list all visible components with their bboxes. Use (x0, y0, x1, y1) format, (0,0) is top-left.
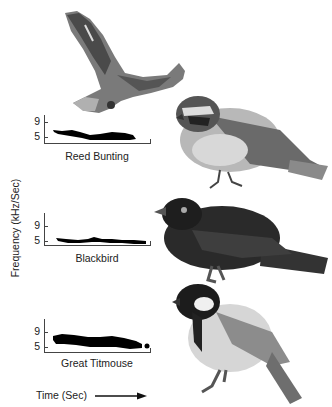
arrow-right-icon (93, 391, 149, 401)
tick-9: 9 (28, 115, 40, 127)
chart-great-titmouse: 9 5 Great Titmouse (0, 316, 160, 376)
great-titmouse-illustration (172, 282, 332, 407)
spectrogram-axes (0, 110, 160, 150)
tick-5: 5 (28, 340, 40, 352)
call-trace (56, 237, 146, 244)
panel-title: Blackbird (44, 252, 150, 264)
reed-bunting-illustration (170, 90, 330, 190)
tick-9: 9 (28, 219, 40, 231)
tick-9: 9 (28, 325, 40, 337)
call-trace (53, 130, 136, 140)
spectrogram-axes (0, 210, 160, 250)
call-trace (53, 334, 142, 349)
tick-5: 5 (28, 234, 40, 246)
spectrogram-axes (0, 316, 160, 356)
x-axis-label: Time (Sec) (36, 389, 87, 401)
blackbird-illustration (152, 194, 332, 284)
panel-title: Reed Bunting (44, 150, 150, 162)
panel-title: Great Titmouse (44, 357, 150, 369)
chart-blackbird: 9 5 Blackbird (0, 210, 160, 270)
tick-5: 5 (28, 130, 40, 142)
chart-reed-bunting: 9 5 Reed Bunting (0, 110, 160, 170)
